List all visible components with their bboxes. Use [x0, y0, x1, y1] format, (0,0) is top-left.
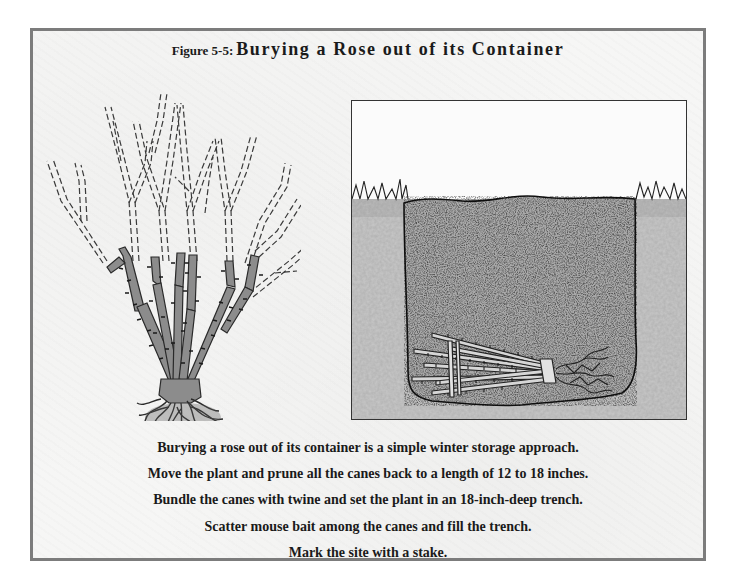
figure-title: Figure 5-5:Burying a Rose out of its Con… — [33, 39, 703, 60]
grass-right — [636, 181, 686, 199]
remaining-canes — [107, 247, 259, 403]
figure-label: Figure 5-5: — [172, 43, 234, 58]
figure-caption: Burying a rose out of its container is a… — [33, 435, 703, 566]
caption-line: Move the plant and prune all the canes b… — [33, 461, 703, 487]
caption-line: Mark the site with a stake. — [33, 540, 703, 566]
caption-line: Scatter mouse bait among the canes and f… — [33, 514, 703, 540]
figure-heading: Burying a Rose out of its Container — [236, 39, 564, 59]
rose-plant-illustration — [41, 81, 301, 421]
grass-left — [352, 179, 408, 199]
trench-drawing — [352, 101, 686, 419]
pruned-canes — [47, 93, 301, 297]
trench-illustration — [351, 100, 687, 420]
figure-frame: Figure 5-5:Burying a Rose out of its Con… — [30, 28, 706, 561]
rose-plant-drawing — [41, 81, 301, 421]
caption-line: Burying a rose out of its container is a… — [33, 435, 703, 461]
caption-line: Bundle the canes with twine and set the … — [33, 487, 703, 513]
